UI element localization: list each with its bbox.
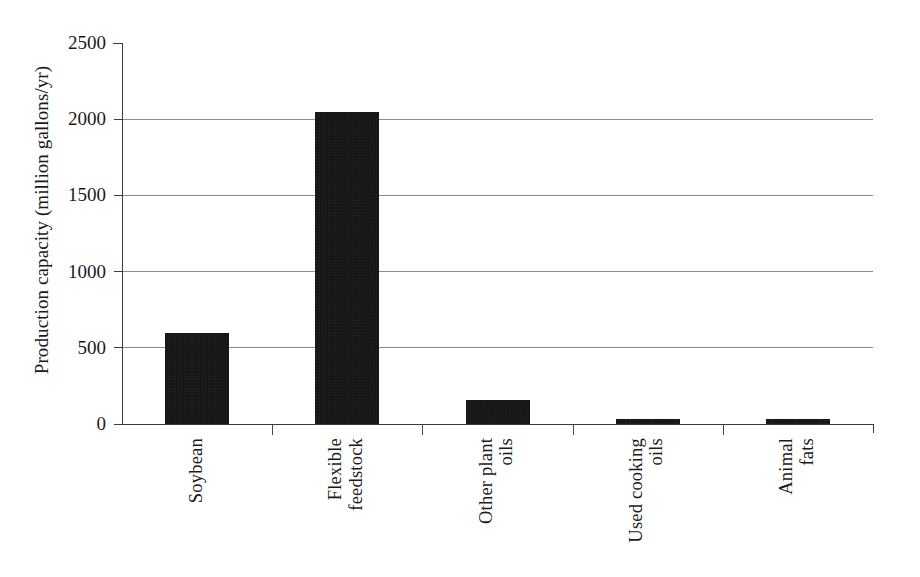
x-tick-label: Other plantoils <box>476 438 520 573</box>
x-tick-label: Animalfats <box>776 438 820 573</box>
bars-group <box>122 43 873 424</box>
x-tick-label-line: feedstock <box>346 438 367 511</box>
bar <box>766 419 830 424</box>
bar-chart-figure: Production capacity (million gallons/yr)… <box>0 0 920 577</box>
bar <box>315 112 379 424</box>
bar <box>466 400 530 424</box>
x-tick-label-line: Animal <box>776 438 797 495</box>
y-tick-label: 2500 <box>44 33 106 52</box>
x-tick-label-line: fats <box>797 438 818 466</box>
x-tick-label: Used cookingoils <box>626 438 670 573</box>
y-tick-label: 1500 <box>44 185 106 204</box>
x-tick-label: Flexiblefeedstock <box>325 438 369 573</box>
bar <box>165 333 229 424</box>
y-tick-label: 2000 <box>44 109 106 128</box>
x-tick-label-line: Used cooking <box>626 438 647 543</box>
y-tick-label: 1000 <box>44 262 106 281</box>
category-separator <box>723 425 724 435</box>
bar <box>616 419 680 424</box>
category-separator <box>573 425 574 435</box>
x-tick-label-line: oils <box>646 438 667 466</box>
x-tick-label-line: Soybean <box>186 438 207 503</box>
x-tick-label-line: Flexible <box>325 438 346 500</box>
y-axis-tick-labels: 05001000150020002500 <box>38 0 106 460</box>
x-axis-end-tick <box>873 424 874 433</box>
y-tick-label: 500 <box>44 338 106 357</box>
y-tick-label: 0 <box>44 414 106 433</box>
category-separator <box>422 425 423 435</box>
x-tick-label-line: oils <box>496 438 517 466</box>
category-separator <box>272 425 273 435</box>
x-tick-label: Soybean <box>186 438 208 573</box>
x-tick-label-line: Other plant <box>476 438 497 524</box>
